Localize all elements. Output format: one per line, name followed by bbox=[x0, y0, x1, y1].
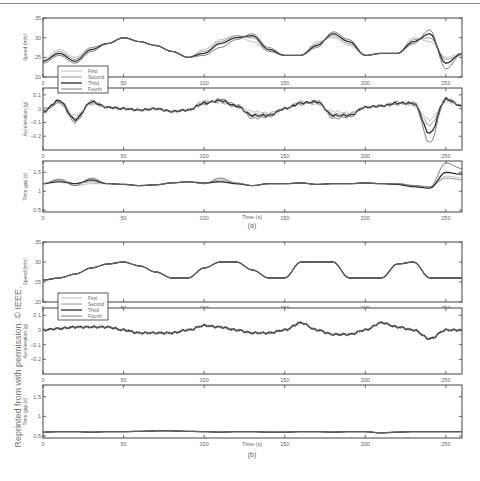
y-tick-label: 1.5 bbox=[33, 394, 41, 400]
y-tick-label: 0.1 bbox=[33, 312, 41, 318]
x-tick-label: 50 bbox=[121, 441, 127, 447]
x-tick-label: 0 bbox=[41, 377, 44, 383]
x-tick-label: 50 bbox=[121, 377, 127, 383]
y-axis-label: Time gap (s) bbox=[22, 397, 28, 425]
y-tick-label: 35 bbox=[35, 239, 41, 245]
x-tick-label: 200 bbox=[361, 441, 370, 447]
y-tick-label: 25 bbox=[35, 279, 41, 285]
y-tick-label: 20 bbox=[35, 299, 41, 305]
x-tick-label: 100 bbox=[200, 441, 209, 447]
legend-entry: Third bbox=[88, 308, 99, 313]
y-tick-label: 35 bbox=[35, 15, 41, 21]
x-tick-label: 50 bbox=[121, 215, 127, 221]
x-tick-label: 250 bbox=[441, 153, 450, 159]
x-tick-label: 150 bbox=[280, 80, 289, 86]
plot-frame bbox=[43, 161, 462, 212]
y-axis-label: Acceleration (g) bbox=[22, 323, 28, 358]
x-tick-label: 50 bbox=[121, 80, 127, 86]
legend-entry: Fourth bbox=[88, 314, 102, 319]
y-axis-label: Time gap (s) bbox=[22, 172, 28, 200]
subplot-a-acceleration: 050100150200250−0.2−0.100.1Acceleration … bbox=[22, 88, 462, 159]
y-tick-label: 0.5 bbox=[33, 207, 41, 213]
y-tick-label: 0.5 bbox=[33, 433, 41, 439]
y-tick-label: 1 bbox=[38, 188, 41, 194]
x-tick-label: 200 bbox=[361, 215, 370, 221]
x-tick-label: 0 bbox=[41, 215, 44, 221]
x-axis-label: Time (s) bbox=[242, 441, 262, 447]
x-tick-label: 0 bbox=[41, 441, 44, 447]
x-tick-label: 150 bbox=[280, 377, 289, 383]
y-tick-label: −0.1 bbox=[30, 342, 41, 348]
x-tick-label: 100 bbox=[200, 80, 209, 86]
x-tick-label: 0 bbox=[41, 80, 44, 86]
x-tick-label: 250 bbox=[441, 215, 450, 221]
y-tick-label: 1 bbox=[38, 413, 41, 419]
x-tick-label: 100 bbox=[200, 153, 209, 159]
legend-entry: Second bbox=[88, 75, 105, 80]
y-tick-label: 25 bbox=[35, 54, 41, 60]
legend-entry: First bbox=[88, 69, 98, 74]
legend-a: FirstSecondThirdFourth bbox=[58, 66, 108, 93]
x-tick-label: 150 bbox=[280, 153, 289, 159]
y-tick-label: −0.2 bbox=[30, 133, 41, 139]
y-axis-label: Speed (m/s) bbox=[22, 258, 28, 286]
x-tick-label: 100 bbox=[200, 215, 209, 221]
x-tick-label: 200 bbox=[361, 377, 370, 383]
x-tick-label: 200 bbox=[361, 153, 370, 159]
y-tick-label: −0.2 bbox=[30, 356, 41, 362]
x-tick-label: 250 bbox=[441, 441, 450, 447]
subplot-a-time-gap: 0501001502002500.511.5Time gap (s) bbox=[22, 161, 462, 221]
y-tick-label: 30 bbox=[35, 259, 41, 265]
legend-entry: Second bbox=[88, 302, 105, 307]
subplot-b-time-gap: 0501001502002500.511.5Time gap (s) bbox=[22, 385, 462, 447]
x-tick-label: 150 bbox=[280, 441, 289, 447]
y-axis-label: Acceleration (g) bbox=[22, 101, 28, 136]
x-tick-label: 250 bbox=[441, 377, 450, 383]
y-tick-label: 1.5 bbox=[33, 169, 41, 175]
y-tick-label: 20 bbox=[35, 74, 41, 80]
x-tick-label: 150 bbox=[280, 215, 289, 221]
y-tick-label: 0 bbox=[38, 327, 41, 333]
legend-b: FirstSecondThirdFourth bbox=[58, 293, 108, 320]
y-axis-label: Speed (m/s) bbox=[22, 34, 28, 62]
x-tick-label: 50 bbox=[121, 153, 127, 159]
legend-entry: Third bbox=[88, 81, 99, 86]
x-tick-label: 0 bbox=[41, 153, 44, 159]
x-tick-label: 250 bbox=[441, 80, 450, 86]
x-axis-label: Time (s) bbox=[242, 214, 262, 220]
panel-label-b: (b) bbox=[248, 451, 257, 459]
figure-canvas: 05010015020025020253035Speed (m/s)050100… bbox=[0, 0, 480, 481]
legend-entry: Fourth bbox=[88, 87, 102, 92]
y-tick-label: 0.1 bbox=[33, 92, 41, 98]
x-tick-label: 100 bbox=[200, 377, 209, 383]
plot-frame bbox=[43, 88, 462, 150]
x-tick-label: 200 bbox=[361, 80, 370, 86]
legend-entry: First bbox=[88, 296, 98, 301]
panel-label-a: (a) bbox=[248, 222, 257, 230]
y-tick-label: −0.1 bbox=[30, 119, 41, 125]
y-tick-label: 30 bbox=[35, 35, 41, 41]
plot-frame bbox=[43, 385, 462, 438]
y-tick-label: 0 bbox=[38, 106, 41, 112]
